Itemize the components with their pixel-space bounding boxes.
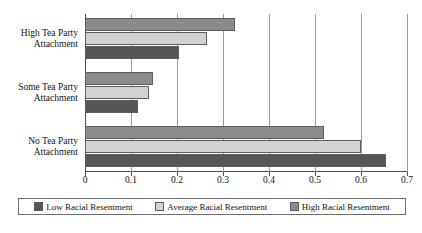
bar: [85, 72, 153, 85]
bar-group: [85, 126, 407, 168]
x-tick-label: 0.3: [208, 175, 238, 185]
category-label-line: Some Tea Party: [0, 82, 78, 93]
legend-swatch-icon: [155, 202, 164, 211]
legend-swatch-icon: [34, 202, 43, 211]
x-tick-label: 0.5: [300, 175, 330, 185]
legend-item[interactable]: Average Racial Resentment: [155, 202, 267, 212]
legend-label: Low Racial Resentment: [46, 202, 132, 212]
x-tick-label: 0.6: [346, 175, 376, 185]
bar: [85, 18, 235, 31]
bar: [85, 32, 207, 45]
plot-area: [85, 14, 407, 172]
category-label-line: Attachment: [0, 39, 78, 50]
bar: [85, 140, 361, 153]
bar: [85, 154, 386, 167]
x-tick-label: 0.1: [116, 175, 146, 185]
category-label-line: Attachment: [0, 93, 78, 104]
bar-group: [85, 72, 407, 114]
x-tick-label: 0.2: [162, 175, 192, 185]
category-label-line: No Tea Party: [0, 136, 78, 147]
bar-chart-figure: High Tea PartyAttachmentSome Tea PartyAt…: [0, 0, 422, 233]
chart-legend: Low Racial ResentmentAverage Racial Rese…: [18, 198, 406, 215]
x-tick-label: 0: [70, 175, 100, 185]
category-label-line: High Tea Party: [0, 28, 78, 39]
legend-swatch-icon: [290, 202, 299, 211]
bar: [85, 126, 324, 139]
bar: [85, 86, 149, 99]
x-tick-label: 0.7: [392, 175, 422, 185]
legend-label: High Racial Resentment: [302, 202, 390, 212]
legend-item[interactable]: High Racial Resentment: [290, 202, 390, 212]
bar: [85, 46, 179, 59]
x-axis-line: [85, 171, 407, 172]
category-label: No Tea PartyAttachment: [0, 136, 78, 158]
category-label: Some Tea PartyAttachment: [0, 82, 78, 104]
category-label: High Tea PartyAttachment: [0, 28, 78, 50]
legend-item[interactable]: Low Racial Resentment: [34, 202, 132, 212]
gridline: [407, 14, 408, 172]
bar: [85, 100, 138, 113]
category-label-line: Attachment: [0, 147, 78, 158]
legend-label: Average Racial Resentment: [167, 202, 267, 212]
bar-group: [85, 18, 407, 60]
x-tick-label: 0.4: [254, 175, 284, 185]
